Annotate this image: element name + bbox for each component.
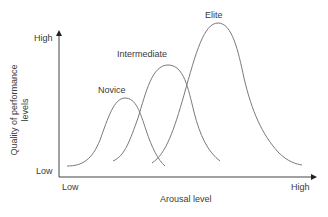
elite-curve <box>152 23 302 165</box>
x-axis-high-label: High <box>291 183 310 192</box>
intermediate-label: Intermediate <box>117 50 167 59</box>
y-axis-title-line1: Quality of performance <box>9 64 20 155</box>
y-axis-low-label: Low <box>36 167 53 176</box>
x-axis-title: Arousal level <box>160 195 212 204</box>
novice-curve <box>67 98 165 166</box>
y-axis-title-line2: levels <box>20 64 31 155</box>
elite-label: Elite <box>205 11 223 20</box>
y-axis-title: Quality of performance levels <box>9 64 31 155</box>
novice-label: Novice <box>98 86 126 95</box>
x-axis-low-label: Low <box>62 183 79 192</box>
y-axis-high-label: High <box>34 34 53 43</box>
intermediate-curve <box>113 65 220 161</box>
